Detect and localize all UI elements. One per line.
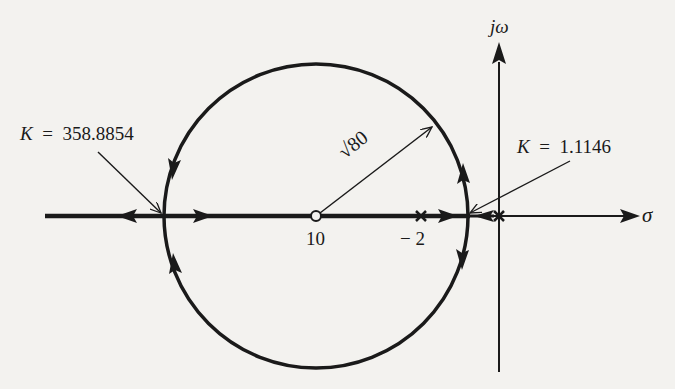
k-left-var: K bbox=[20, 123, 33, 144]
k-right-pointer bbox=[470, 161, 570, 213]
k-left-eq: = bbox=[42, 123, 53, 144]
radius-arrow bbox=[320, 127, 432, 213]
pole-label: − 2 bbox=[400, 228, 425, 250]
k-right-eq: = bbox=[539, 136, 550, 157]
imag-axis-label: jω bbox=[490, 16, 509, 38]
zero-marker-icon bbox=[311, 211, 321, 221]
k-left-pointer bbox=[98, 152, 161, 213]
k-left-value: 358.8854 bbox=[62, 123, 133, 144]
k-right-value: 1.1146 bbox=[559, 136, 611, 157]
real-axis-label: σ bbox=[642, 203, 652, 228]
k-left-annotation: K = 358.8854 bbox=[20, 123, 134, 145]
root-locus-diagram: jω σ K = 358.8854 K = 1.1146 √80 10 − 2 bbox=[0, 0, 675, 389]
k-right-var: K bbox=[517, 136, 530, 157]
root-locus-plot bbox=[0, 0, 675, 389]
zero-label: 10 bbox=[306, 228, 325, 250]
k-right-annotation: K = 1.1146 bbox=[517, 136, 611, 158]
imag-axis-arrow-icon bbox=[492, 42, 506, 64]
